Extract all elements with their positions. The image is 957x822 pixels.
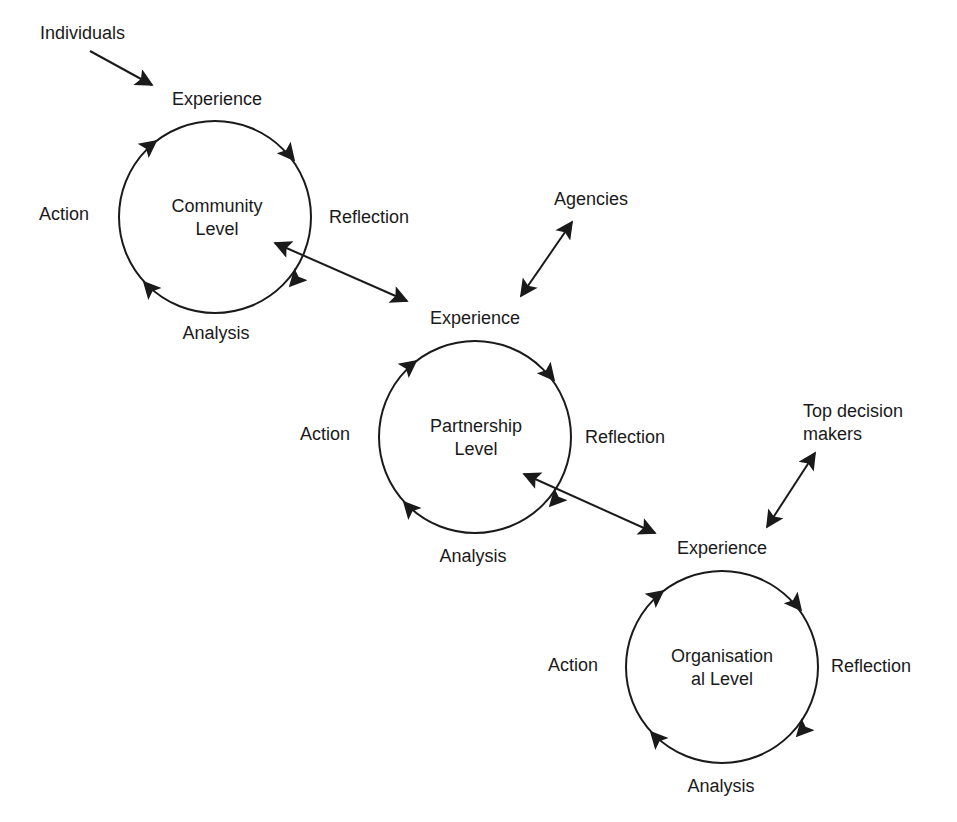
stage-action: Action bbox=[39, 204, 89, 225]
cycle-label-partnership-line1: Partnership bbox=[430, 416, 522, 437]
cycle-label-organisational-line2: al Level bbox=[691, 669, 753, 690]
actor-top-decision-makers-line2: makers bbox=[803, 424, 862, 445]
stage-analysis: Analysis bbox=[439, 546, 506, 567]
stage-reflection: Reflection bbox=[831, 656, 911, 677]
stage-experience: Experience bbox=[172, 89, 262, 110]
cycle-label-community-line2: Level bbox=[195, 219, 238, 240]
cycle-ring bbox=[626, 571, 818, 763]
stage-reflection: Reflection bbox=[329, 207, 409, 228]
cycle-label-community-line1: Community bbox=[171, 196, 262, 217]
cycle-label-partnership-line2: Level bbox=[454, 439, 497, 460]
stage-experience: Experience bbox=[430, 308, 520, 329]
cycle-organisational bbox=[626, 571, 818, 763]
stage-experience: Experience bbox=[677, 538, 767, 559]
stage-action: Action bbox=[548, 655, 598, 676]
actor-agencies: Agencies bbox=[554, 189, 628, 210]
stage-action: Action bbox=[300, 424, 350, 445]
cycle-label-organisational-line1: Organisation bbox=[671, 646, 773, 667]
stage-analysis: Analysis bbox=[687, 776, 754, 797]
actor-individuals: Individuals bbox=[40, 23, 125, 44]
cycle-partnership bbox=[379, 341, 571, 533]
cycle-ring bbox=[119, 121, 311, 313]
individuals-arrow-icon bbox=[90, 51, 152, 85]
cycle-community bbox=[119, 121, 311, 313]
stage-reflection: Reflection bbox=[585, 427, 665, 448]
agencies-arrow-icon bbox=[521, 222, 572, 296]
top-decision-makers-arrow-icon bbox=[767, 453, 815, 527]
stage-analysis: Analysis bbox=[182, 323, 249, 344]
cycle-ring bbox=[379, 341, 571, 533]
actor-top-decision-makers-line1: Top decision bbox=[803, 401, 903, 422]
